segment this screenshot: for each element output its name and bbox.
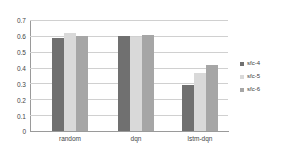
bar-random-sfc-6: [76, 36, 88, 131]
legend-item-sfc-6: sfc-6: [240, 84, 280, 95]
legend: sfc-4 sfc-5 sfc-6: [240, 58, 280, 97]
bar-group-dqn: [118, 20, 154, 131]
y-axis-tick-label: 0.4: [17, 64, 26, 71]
legend-swatch-icon: [240, 75, 244, 79]
y-axis-tick-label: 0.3: [17, 80, 26, 87]
y-axis-tick-label: 0.5: [17, 49, 26, 56]
bar-dqn-sfc-5: [130, 37, 142, 131]
bar-dqn-sfc-4: [118, 36, 130, 131]
legend-item-sfc-4: sfc-4: [240, 58, 280, 69]
y-axis-tick-label: 0.2: [17, 96, 26, 103]
y-axis-tick-label: 0.7: [17, 17, 26, 24]
legend-swatch-icon: [240, 88, 244, 92]
y-axis-tick-label: 0: [22, 128, 26, 135]
y-axis-tick-label: 0.6: [17, 33, 26, 40]
bar-random-sfc-5: [64, 33, 76, 131]
legend-item-sfc-5: sfc-5: [240, 71, 280, 82]
y-axis-tick-label: 0.1: [17, 112, 26, 119]
bar-lstm-dqn-sfc-4: [182, 85, 194, 131]
legend-label: sfc-4: [247, 60, 260, 67]
legend-label: sfc-5: [247, 73, 260, 80]
bar-random-sfc-4: [52, 38, 64, 131]
x-axis-label-lstm-dqn: lstm-dqn: [170, 135, 230, 143]
bar-group-random: [52, 20, 88, 131]
legend-swatch-icon: [240, 62, 244, 66]
x-axis-label-random: random: [40, 135, 100, 143]
bar-lstm-dqn-sfc-6: [206, 65, 218, 131]
bar-dqn-sfc-6: [142, 35, 154, 131]
x-axis-label-dqn: dqn: [106, 135, 166, 143]
bar-chart: 0.7 0.6 0.5 0.4 0.3 0.2 0.1 0: [0, 0, 281, 148]
y-axis-labels: 0.7 0.6 0.5 0.4 0.3 0.2 0.1 0: [0, 20, 26, 132]
x-axis-line: [30, 131, 229, 132]
bar-lstm-dqn-sfc-5: [194, 73, 206, 131]
bar-group-lstm-dqn: [182, 20, 218, 131]
plot-area: [30, 20, 228, 131]
legend-label: sfc-6: [247, 86, 260, 93]
